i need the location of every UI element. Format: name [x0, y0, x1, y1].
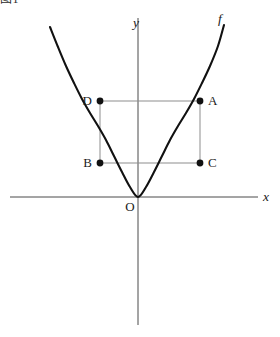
point-d-label: D	[83, 93, 92, 108]
point-a-label: A	[208, 93, 218, 108]
point-d-dot	[97, 98, 104, 105]
point-b-label: B	[83, 155, 92, 170]
point-c-dot	[197, 160, 204, 167]
figure-canvas: A B C D O y x f	[0, 0, 280, 337]
parabola-figure: 图1 A B C D O y x f	[0, 0, 280, 337]
origin-label: O	[125, 199, 134, 214]
x-axis-label: x	[262, 189, 269, 204]
point-c-label: C	[208, 155, 217, 170]
function-label-f: f	[218, 11, 224, 26]
point-b-dot	[97, 160, 104, 167]
point-a-dot	[197, 98, 204, 105]
parabola-curve-f	[50, 25, 224, 197]
y-axis-label: y	[131, 15, 139, 30]
